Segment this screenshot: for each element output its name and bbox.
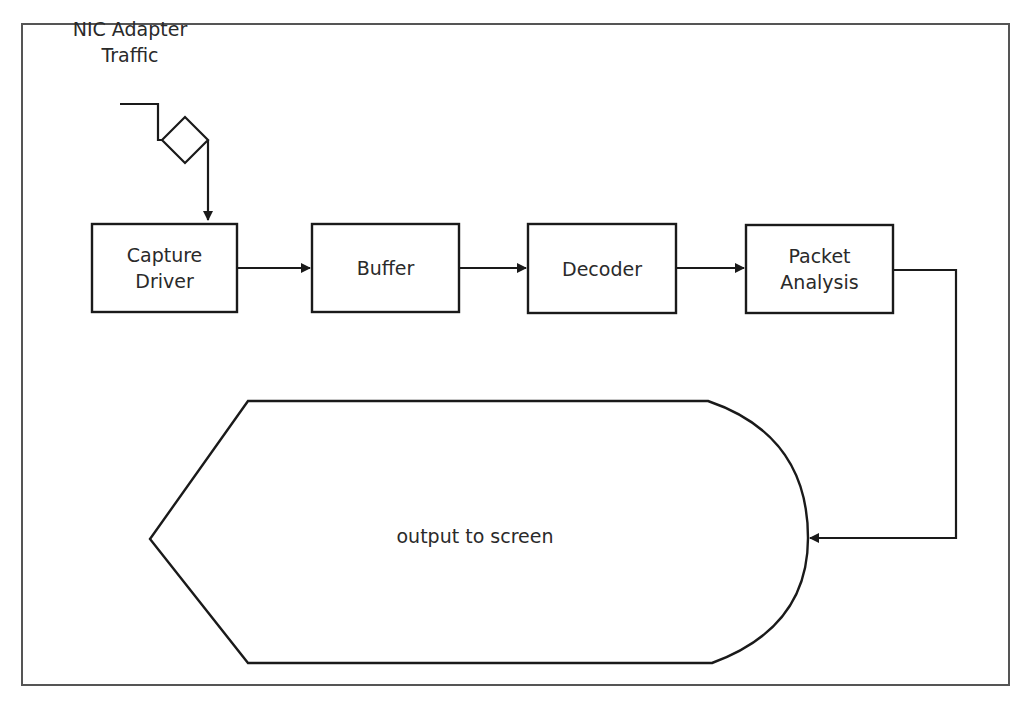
node-packet-analysis-label: Packet Analysis [746, 225, 893, 313]
output-display-label: output to screen [330, 518, 620, 554]
input-label: NIC Adapter Traffic [40, 12, 220, 72]
node-capture-driver-label: Capture Driver [92, 224, 237, 312]
diagram-frame [22, 24, 1009, 685]
node-decoder-label: Decoder [528, 224, 676, 313]
diamond-icon [162, 117, 208, 163]
diagram-canvas [0, 0, 1018, 706]
traffic-input-connector [120, 104, 208, 220]
node-buffer-label: Buffer [312, 224, 459, 312]
